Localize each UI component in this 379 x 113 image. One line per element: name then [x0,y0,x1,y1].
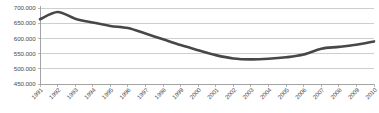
line-chart-figure: 450.000500.000550.000600.000650.000700.0… [0,0,379,113]
y-tick-label: 600.000 [14,35,36,42]
chart-canvas: 450.000500.000550.000600.000650.000700.0… [0,0,379,113]
y-tick-label: 650.000 [14,19,36,26]
y-tick-label: 500.000 [14,65,36,72]
y-tick-label: 700.000 [14,4,36,11]
y-tick-label: 550.000 [14,50,36,57]
y-tick-label: 450.000 [14,80,36,87]
